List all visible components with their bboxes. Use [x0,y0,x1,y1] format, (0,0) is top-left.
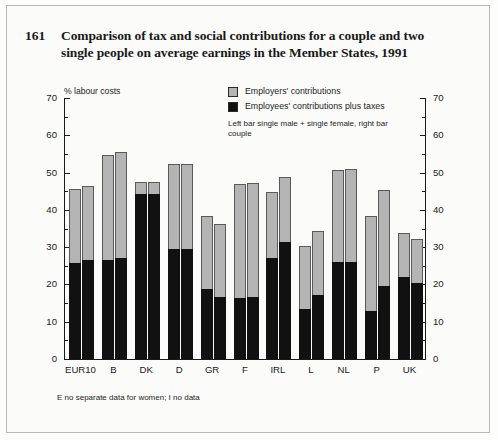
bar-single [69,189,81,359]
x-tick-label: UK [393,364,426,375]
bar-group [398,98,423,359]
bar-segment-employees [168,249,180,359]
bar-segment-employees [332,262,344,359]
x-tick-label: L [294,364,327,375]
y-tick-minor [65,117,68,118]
bar-group [69,98,94,359]
figure-page: 161 Comparison of tax and social contrib… [0,0,498,440]
legend-label-employers: Employers' contributions [245,86,428,97]
bar-segment-employees [279,242,291,359]
y-tick-minor [65,229,68,230]
bar-couple [115,152,127,359]
bar-single [365,216,377,359]
y-tick-label-right: 50 [433,168,457,178]
y-tick-minor [65,191,68,192]
y-axis-unit-label: % labour costs [64,86,120,96]
y-tick-minor [65,154,68,155]
bar-single [201,216,213,359]
bar-segment-employees [365,311,377,359]
bar-segment-employees [181,249,193,359]
bar-couple [214,224,226,359]
bar-group [266,98,291,359]
y-tick-label-right: 10 [433,317,457,327]
bar-single [266,192,278,359]
x-tick-label: F [229,364,262,375]
bar-group [365,98,390,359]
bar-segment-employees [234,298,246,359]
bar-group [135,98,160,359]
bar-segment-employees [115,258,127,359]
y-tick-minor [65,340,68,341]
y-tick-label-left: 0 [33,354,57,364]
y-tick-label-left: 30 [33,242,57,252]
bar-couple [345,169,357,359]
bar-couple [148,182,160,359]
bar-group [332,98,357,359]
x-axis [64,359,426,360]
y-tick-label-right: 40 [433,205,457,215]
y-tick-label-left: 10 [33,317,57,327]
y-tick-label-right: 60 [433,130,457,140]
bar-couple [378,190,390,359]
bar-couple [82,186,94,359]
footnote: E no separate data for women; I no data [57,393,200,402]
x-tick-label: D [163,364,196,375]
y-tick-major [420,359,425,360]
x-tick-label: EUR10 [64,364,97,375]
bar-segment-employees [148,194,160,359]
x-tick-label: NL [327,364,360,375]
y-tick-label-left: 40 [33,205,57,215]
x-tick-label: P [360,364,393,375]
bar-segment-employees [102,260,114,359]
figure-number: 161 [25,28,45,44]
y-tick-minor [65,266,68,267]
y-tick-label-right: 20 [433,279,457,289]
bar-single [102,155,114,359]
y-tick-minor [65,303,68,304]
bar-segment-employees [135,194,147,359]
x-tick-label: IRL [261,364,294,375]
bar-group [201,98,226,359]
x-tick-label: B [97,364,130,375]
bar-couple [411,239,423,359]
bar-couple [312,231,324,359]
y-tick-major [65,359,70,360]
bar-couple [279,177,291,359]
y-tick-label-left: 20 [33,279,57,289]
y-tick-label-left: 70 [33,93,57,103]
legend-item-employers: Employers' contributions [228,86,428,98]
y-tick-label-left: 60 [33,130,57,140]
bar-group [102,98,127,359]
bar-segment-employees [345,262,357,359]
bar-segment-employees [299,309,311,359]
page-title: Comparison of tax and social contributio… [61,28,457,61]
bar-group [168,98,193,359]
bar-single [332,170,344,359]
y-tick-label-right: 70 [433,93,457,103]
bar-segment-employees [312,295,324,359]
x-tick-label: DK [130,364,163,375]
y-axis-right [425,98,426,360]
bar-single [135,182,147,359]
bar-segment-employees [247,297,259,359]
bar-segment-employees [378,286,390,359]
bar-segment-employees [69,263,81,359]
bar-segment-employees [214,297,226,359]
bar-segment-employees [201,289,213,359]
bar-single [168,164,180,359]
y-tick-label-left: 50 [33,168,57,178]
bar-group [234,98,259,359]
plot-area: 001010202030304040505060607070 EUR10BDKD… [64,98,426,360]
bar-single [299,246,311,359]
bar-segment-employees [398,277,410,359]
bar-segment-employees [266,258,278,359]
y-tick-label-right: 0 [433,354,457,364]
bar-group [299,98,324,359]
legend-swatch-employers-icon [228,87,238,97]
bar-segment-employees [82,260,94,359]
bar-segment-employees [411,283,423,359]
bar-couple [247,183,259,359]
bar-single [234,184,246,359]
bar-single [398,233,410,359]
x-tick-label: GR [196,364,229,375]
